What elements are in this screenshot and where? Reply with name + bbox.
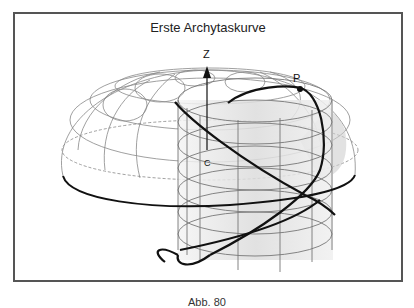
figure-caption: Abb. 80 [0,296,414,308]
cylinder [178,78,333,272]
z-axis-label: Z [203,48,210,60]
center-c-label: C [204,158,211,168]
point-p-label: P [293,72,300,84]
point-p-marker [297,86,303,92]
